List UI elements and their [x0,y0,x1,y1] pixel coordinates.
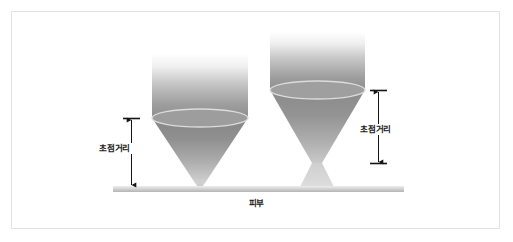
skin-surface-bar [113,186,404,192]
skin-caption-label: 피부 [0,199,513,208]
left-focal-point [197,180,203,187]
left-transducer-cone [152,118,248,186]
left-transducer [152,55,248,187]
right-transducer-cone-lower [300,163,334,187]
right-transducer [270,33,365,187]
right-focal-distance-label: 초점거리 [358,124,393,135]
left-focal-distance-label: 초점거리 [97,143,132,154]
right-transducer-cone-upper [270,90,365,163]
figure-root: 초점거리 초점거리 피부 [0,0,513,242]
